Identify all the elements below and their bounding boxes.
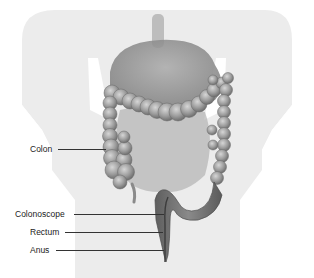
anatomy-figure: Colon Colonoscope Rectum Anus xyxy=(0,0,314,278)
leader-line-anus xyxy=(56,250,164,251)
label-anus: Anus xyxy=(30,245,49,255)
leader-line-colonoscope xyxy=(74,214,164,215)
label-rectum: Rectum xyxy=(30,227,59,237)
leader-line-colon xyxy=(58,149,106,150)
leader-line-rectum xyxy=(65,232,163,233)
label-colon: Colon xyxy=(30,144,52,154)
label-colonoscope: Colonoscope xyxy=(15,209,65,219)
